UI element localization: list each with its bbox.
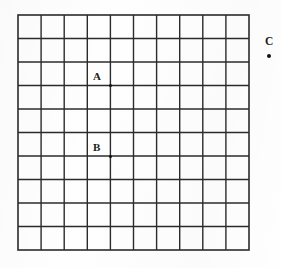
grid-lines	[18, 15, 249, 250]
figure-canvas: A B C	[0, 0, 281, 268]
point-label-c: C	[265, 36, 274, 48]
point-label-a: A	[93, 71, 101, 82]
point-marker-a	[109, 84, 112, 87]
point-label-b: B	[93, 142, 101, 153]
point-marker-b	[109, 155, 112, 158]
grid-graphic	[0, 0, 281, 268]
